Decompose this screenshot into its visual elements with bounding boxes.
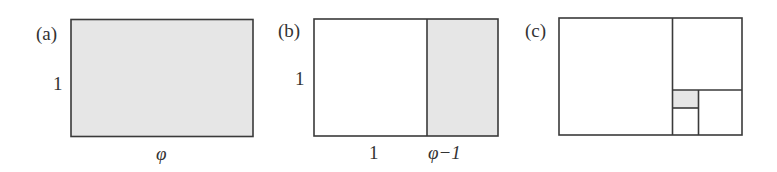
panel-c (559, 18, 742, 135)
panel-b-width-label-phi-minus-1: φ−1 (428, 143, 461, 162)
panel-a-width-label: φ (156, 144, 167, 163)
panel-a-rectangle (71, 20, 253, 137)
panel-a-label: (a) (36, 24, 57, 43)
panel-b-label: (b) (278, 21, 300, 40)
panel-c-label: (c) (525, 21, 546, 40)
panel-b-width-label-1: 1 (369, 143, 379, 162)
panel-b-shaded-region (427, 19, 498, 136)
panel-a-height-label: 1 (53, 74, 63, 93)
panel-c-rectangle (559, 18, 742, 135)
golden-rectangle-diagram (0, 0, 777, 172)
panel-c-shaded-square (673, 90, 698, 108)
panel-b (314, 19, 498, 136)
panel-b-height-label: 1 (295, 69, 305, 88)
